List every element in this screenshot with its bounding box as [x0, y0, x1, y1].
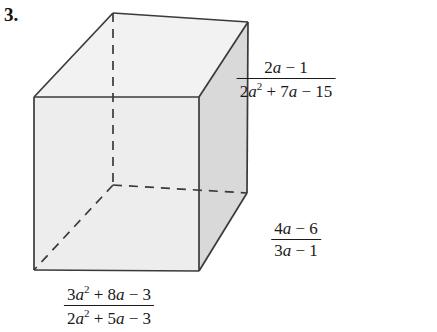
figure-page: 3. 2a − 1 2a2 + 7a − 15 4a − 6 3a − 1 3a…: [0, 0, 437, 332]
width-label: 3a2 + 8a − 3 2a2 + 5a − 3: [64, 283, 154, 327]
height-label-denominator: 2a2 + 7a − 15: [237, 79, 336, 101]
box-front-face: [34, 97, 199, 271]
height-label: 2a − 1 2a2 + 7a − 15: [237, 58, 336, 101]
height-label-numerator: 2a − 1: [237, 58, 336, 79]
width-label-numerator: 3a2 + 8a − 3: [64, 283, 154, 306]
edge-front-bottom: [34, 270, 199, 271]
depth-label-numerator: 4a − 6: [271, 219, 321, 240]
width-label-denominator: 2a2 + 5a − 3: [64, 306, 154, 328]
depth-label-denominator: 3a − 1: [271, 240, 321, 260]
edge-back-right-vertical: [247, 22, 248, 193]
depth-label: 4a − 6 3a − 1: [271, 219, 321, 260]
